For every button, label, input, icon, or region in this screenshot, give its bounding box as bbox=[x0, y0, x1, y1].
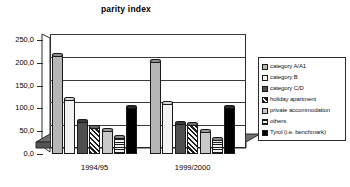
bar bbox=[64, 99, 75, 154]
legend-label: category B bbox=[270, 72, 298, 83]
bar bbox=[224, 107, 235, 154]
x-axis-label: 1999/2000 bbox=[158, 163, 228, 172]
bar-cap bbox=[89, 125, 100, 129]
bar-cap bbox=[150, 59, 161, 63]
bars-layer bbox=[14, 30, 250, 160]
legend-swatch bbox=[262, 97, 268, 103]
bar bbox=[126, 107, 137, 154]
legend-label: category C/D bbox=[270, 83, 304, 94]
bar bbox=[52, 55, 63, 154]
legend-swatch bbox=[262, 130, 268, 136]
legend-item[interactable]: category A/A1 bbox=[262, 61, 343, 72]
legend-item[interactable]: Tyrol (i.e. benchmark) bbox=[262, 127, 343, 138]
bar-cap bbox=[187, 122, 198, 126]
legend-label: others bbox=[270, 116, 286, 127]
legend-swatch bbox=[262, 86, 268, 92]
bar bbox=[89, 127, 100, 154]
bar-cap bbox=[162, 101, 173, 105]
legend-label: private accommodation bbox=[270, 105, 330, 116]
x-axis-label: 1994/95 bbox=[60, 163, 130, 172]
bar-cap bbox=[102, 128, 113, 132]
chart-legend: category A/A1category Bcategory C/Dholid… bbox=[258, 57, 346, 141]
legend-item[interactable]: category C/D bbox=[262, 83, 343, 94]
bar bbox=[162, 103, 173, 154]
bar-cap bbox=[224, 105, 235, 109]
bar bbox=[77, 121, 88, 154]
bar-cap bbox=[52, 53, 63, 57]
legend-swatch bbox=[262, 75, 268, 81]
chart-container: parity index 0,050,0100,0150,0200,0250,0… bbox=[0, 0, 350, 187]
bar bbox=[187, 124, 198, 154]
legend-label: Tyrol (i.e. benchmark) bbox=[270, 127, 326, 138]
bar-cap bbox=[175, 121, 186, 125]
legend-item[interactable]: holiday apartment bbox=[262, 94, 343, 105]
bar bbox=[150, 61, 161, 154]
legend-swatch bbox=[262, 64, 268, 70]
legend-item[interactable]: private accommodation bbox=[262, 105, 343, 116]
legend-label: category A/A1 bbox=[270, 61, 306, 72]
bar-cap bbox=[64, 97, 75, 101]
bar bbox=[175, 123, 186, 154]
legend-swatch bbox=[262, 108, 268, 114]
bar bbox=[200, 131, 211, 154]
bar bbox=[102, 130, 113, 154]
bar-cap bbox=[114, 135, 125, 139]
bar-cap bbox=[212, 137, 223, 141]
legend-swatch bbox=[262, 119, 268, 125]
bar-cap bbox=[126, 105, 137, 109]
bar-cap bbox=[200, 129, 211, 133]
bar-cap bbox=[77, 119, 88, 123]
bar bbox=[212, 139, 223, 154]
chart-title: parity index bbox=[0, 4, 252, 14]
legend-item[interactable]: category B bbox=[262, 72, 343, 83]
legend-label: holiday apartment bbox=[270, 94, 316, 105]
legend-item[interactable]: others bbox=[262, 116, 343, 127]
bar bbox=[114, 137, 125, 154]
plot-area: 0,050,0100,0150,0200,0250,0 bbox=[14, 30, 250, 160]
